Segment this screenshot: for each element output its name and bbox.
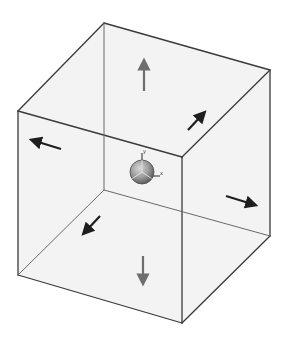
y-axis-label: y	[143, 148, 146, 155]
diagram-canvas: yx	[0, 0, 284, 345]
x-axis-label: x	[160, 170, 163, 176]
cube-diagram: yx	[0, 0, 284, 345]
